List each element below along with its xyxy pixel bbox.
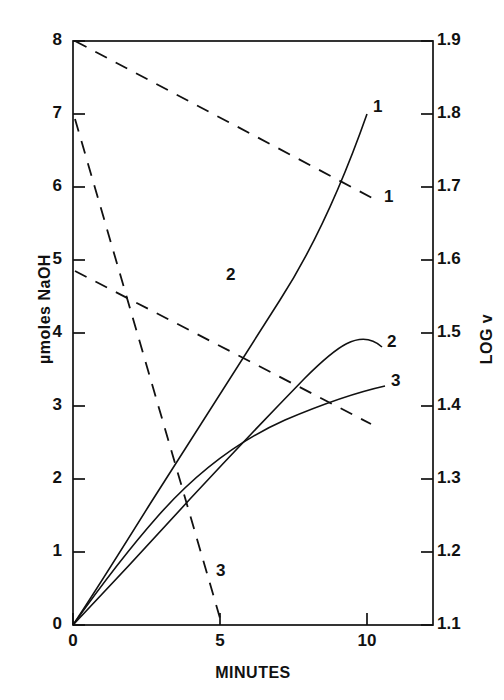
plot-frame: [73, 41, 433, 625]
left-tick-label-7: 7: [32, 103, 62, 123]
right-tick-label-1-1: 1.1: [437, 614, 479, 634]
curve-solid-3: [73, 386, 385, 625]
figure-canvas: µmoles NaOH LOG v MINUTES 8 7 6 5 4 3 2 …: [0, 0, 504, 700]
x-tick-label-0: 0: [53, 631, 93, 651]
left-tick-label-1: 1: [32, 541, 62, 561]
right-tick-label-1-9: 1.9: [437, 30, 479, 50]
curve-label-solid-3: 3: [391, 371, 400, 391]
right-tick-label-1-5: 1.5: [437, 322, 479, 342]
curve-label-dashed-2: 2: [226, 265, 235, 285]
right-tick-label-1-7: 1.7: [437, 176, 479, 196]
line-dashed-2: [75, 271, 371, 424]
bottom-axis-title: MINUTES: [73, 664, 433, 682]
left-tick-label-4: 4: [32, 322, 62, 342]
right-tick-label-1-4: 1.4: [437, 395, 479, 415]
left-tick-label-6: 6: [32, 176, 62, 196]
left-tick-label-2: 2: [32, 468, 62, 488]
curve-label-solid-2: 2: [387, 332, 396, 352]
right-tick-label-1-2: 1.2: [437, 541, 479, 561]
curve-label-solid-1: 1: [373, 97, 382, 117]
line-dashed-1: [75, 41, 378, 201]
left-tick-label-3: 3: [32, 395, 62, 415]
bottom-axis-ticks: [73, 613, 367, 625]
x-tick-label-5: 5: [200, 631, 240, 651]
left-axis-ticks: [73, 41, 85, 625]
right-tick-label-1-3: 1.3: [437, 468, 479, 488]
right-tick-label-1-8: 1.8: [437, 103, 479, 123]
x-tick-label-10: 10: [347, 631, 387, 651]
curve-label-dashed-1: 1: [384, 187, 393, 207]
line-dashed-3: [75, 119, 222, 625]
left-tick-label-5: 5: [32, 249, 62, 269]
right-axis-ticks: [421, 41, 433, 625]
plot-area: [0, 0, 504, 700]
right-tick-label-1-6: 1.6: [437, 249, 479, 269]
left-tick-label-8: 8: [32, 30, 62, 50]
curve-label-dashed-3: 3: [216, 561, 225, 581]
curve-solid-1: [73, 114, 367, 625]
right-axis-title: LOG v: [478, 264, 496, 414]
